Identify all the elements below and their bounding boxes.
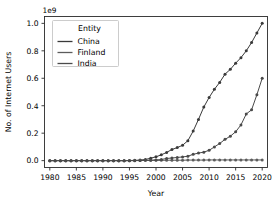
x-tick-label: 2015 bbox=[226, 173, 245, 182]
data-point bbox=[197, 118, 200, 121]
data-point bbox=[218, 158, 221, 161]
data-point bbox=[202, 151, 205, 154]
data-point bbox=[186, 159, 189, 162]
axes-layer: 1980198519901995200020052010201520200.00… bbox=[4, 6, 272, 199]
data-point bbox=[239, 158, 242, 161]
x-axis-title: Year bbox=[147, 189, 165, 198]
y-tick-label: 0.8 bbox=[26, 47, 38, 56]
data-point bbox=[213, 145, 216, 148]
data-point bbox=[155, 158, 158, 161]
data-point bbox=[208, 96, 211, 99]
data-point bbox=[48, 159, 51, 162]
data-point bbox=[155, 155, 158, 158]
data-point bbox=[250, 158, 253, 161]
y-axis-title: No. of Internet Users bbox=[4, 52, 13, 133]
data-point bbox=[234, 130, 237, 133]
data-point bbox=[70, 159, 73, 162]
data-point bbox=[229, 158, 232, 161]
data-point bbox=[186, 155, 189, 158]
data-point bbox=[80, 159, 83, 162]
internet-users-line-chart: 1980198519901995200020052010201520200.00… bbox=[0, 0, 280, 201]
data-point bbox=[261, 158, 264, 161]
chart-legend: EntityChinaFinlandIndia bbox=[53, 21, 119, 69]
x-tick-label: 2020 bbox=[253, 173, 272, 182]
y-tick-label: 0.0 bbox=[26, 156, 38, 165]
data-point bbox=[261, 22, 264, 25]
data-point bbox=[224, 73, 227, 76]
data-point bbox=[139, 159, 142, 162]
x-tick-label: 1985 bbox=[67, 173, 86, 182]
data-point bbox=[224, 138, 227, 141]
data-point bbox=[239, 56, 242, 59]
data-point bbox=[192, 130, 195, 133]
data-point bbox=[245, 112, 248, 115]
series-line-india bbox=[50, 78, 262, 160]
data-point bbox=[165, 157, 168, 160]
data-point bbox=[192, 159, 195, 162]
data-point bbox=[197, 152, 200, 155]
y-tick-label: 0.2 bbox=[26, 129, 38, 138]
data-point bbox=[170, 157, 173, 160]
x-tick-label: 1995 bbox=[120, 173, 139, 182]
x-tick-label: 1990 bbox=[93, 173, 112, 182]
data-point bbox=[176, 156, 179, 159]
data-point bbox=[250, 41, 253, 44]
data-point bbox=[75, 159, 78, 162]
data-point bbox=[64, 159, 67, 162]
data-point bbox=[170, 148, 173, 151]
data-point bbox=[176, 159, 179, 162]
legend-label-india: India bbox=[78, 59, 97, 68]
data-point bbox=[250, 108, 253, 111]
data-point bbox=[123, 159, 126, 162]
data-point bbox=[112, 159, 115, 162]
y-tick-label: 0.6 bbox=[26, 74, 38, 83]
data-point bbox=[255, 158, 258, 161]
data-point bbox=[239, 123, 242, 126]
data-point bbox=[160, 153, 163, 156]
data-point bbox=[234, 62, 237, 65]
data-point bbox=[54, 159, 57, 162]
data-point bbox=[213, 88, 216, 91]
y-axis-offset-label: 1e9 bbox=[43, 6, 57, 15]
data-point bbox=[208, 158, 211, 161]
data-point bbox=[181, 155, 184, 158]
legend-label-china: China bbox=[78, 37, 100, 46]
data-point bbox=[85, 159, 88, 162]
data-point bbox=[117, 159, 120, 162]
x-tick-label: 1980 bbox=[40, 173, 59, 182]
data-point bbox=[192, 153, 195, 156]
data-point bbox=[165, 151, 168, 154]
data-point bbox=[245, 49, 248, 52]
data-point bbox=[218, 142, 221, 145]
x-tick-label: 2000 bbox=[146, 173, 165, 182]
data-point bbox=[197, 159, 200, 162]
data-point bbox=[218, 81, 221, 84]
data-point bbox=[229, 68, 232, 71]
y-tick-label: 1.0 bbox=[26, 19, 38, 28]
data-point bbox=[234, 158, 237, 161]
data-point bbox=[261, 77, 264, 80]
data-point bbox=[229, 135, 232, 138]
legend-title: Entity bbox=[78, 24, 101, 33]
data-point bbox=[128, 159, 131, 162]
data-point bbox=[96, 159, 99, 162]
data-point bbox=[245, 158, 248, 161]
data-point bbox=[144, 159, 147, 162]
series-india bbox=[48, 77, 263, 162]
data-point bbox=[255, 93, 258, 96]
data-point bbox=[176, 146, 179, 149]
data-point bbox=[59, 159, 62, 162]
data-point bbox=[224, 158, 227, 161]
data-point bbox=[91, 159, 94, 162]
data-point bbox=[208, 149, 211, 152]
data-point bbox=[202, 106, 205, 109]
data-point bbox=[101, 159, 104, 162]
data-point bbox=[133, 159, 136, 162]
chart-figure: 1980198519901995200020052010201520200.00… bbox=[0, 0, 280, 201]
data-point bbox=[255, 31, 258, 34]
data-point bbox=[160, 158, 163, 161]
data-point bbox=[213, 158, 216, 161]
x-tick-label: 2005 bbox=[173, 173, 192, 182]
data-point bbox=[186, 139, 189, 142]
y-tick-label: 0.4 bbox=[26, 102, 38, 111]
